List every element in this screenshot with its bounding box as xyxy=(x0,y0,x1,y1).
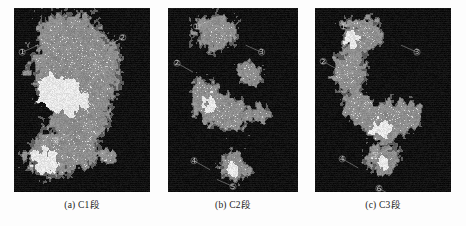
raster-image-b xyxy=(168,8,298,192)
figure-container: (a) C1段 (b) C2段 (c) C3段 xyxy=(0,0,466,226)
raster-image-a xyxy=(14,8,150,192)
raster-image-c xyxy=(315,8,451,192)
image-panel-a xyxy=(14,8,150,192)
caption-panel-b: (b) C2段 xyxy=(168,198,298,212)
image-panel-c xyxy=(315,8,451,192)
panel-row xyxy=(0,0,466,200)
caption-panel-a: (a) C1段 xyxy=(14,198,150,212)
caption-panel-c: (c) C3段 xyxy=(315,198,451,212)
image-panel-b xyxy=(168,8,298,192)
caption-row: (a) C1段 (b) C2段 (c) C3段 xyxy=(0,198,466,220)
